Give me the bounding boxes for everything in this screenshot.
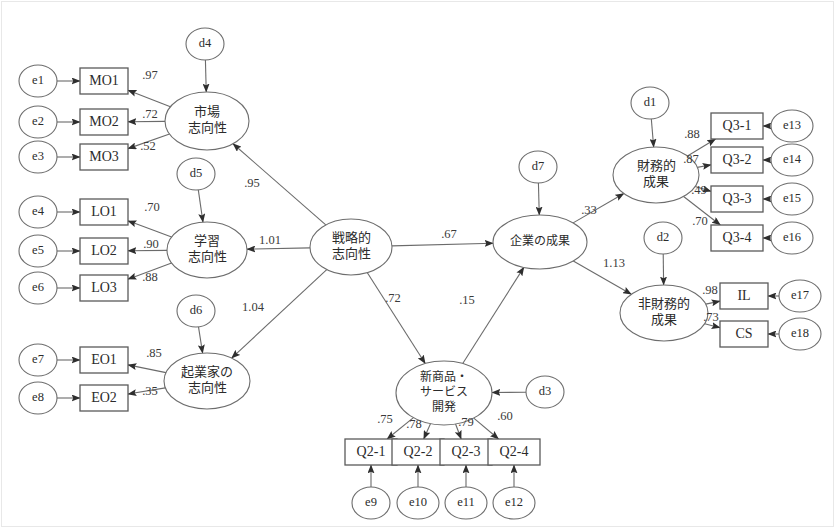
disturbance-node-d3[interactable]: d3 <box>526 376 564 408</box>
error-node-e5[interactable]: e5 <box>19 235 57 267</box>
latent-node-label: 志向性 <box>188 249 227 264</box>
error-node-e17[interactable]: e17 <box>779 280 821 312</box>
observed-node-LO3[interactable]: LO3 <box>80 275 128 301</box>
observed-node-label: Q2-4 <box>500 444 529 459</box>
error-node-label: e10 <box>409 495 427 509</box>
error-node-label: e16 <box>783 230 801 244</box>
error-node-e16[interactable]: e16 <box>771 222 813 254</box>
observed-node-CS[interactable]: CS <box>720 321 768 347</box>
latent-node-EO[interactable]: 起業家の志向性 <box>164 353 250 409</box>
error-node-label: e8 <box>32 390 44 404</box>
error-node-e13[interactable]: e13 <box>771 110 813 142</box>
error-node-label: e18 <box>791 326 809 340</box>
error-node-e8[interactable]: e8 <box>19 382 57 414</box>
disturbance-path-d6-to-EO <box>198 327 202 353</box>
latent-node-label: 志向性 <box>188 380 227 395</box>
disturbance-path-d1-to-FIN <box>651 119 653 147</box>
observed-node-label: Q3-4 <box>723 230 752 245</box>
error-node-label: e11 <box>457 495 475 509</box>
observed-node-label: MO2 <box>89 114 119 129</box>
observed-node-Q2-2[interactable]: Q2-2 <box>392 439 444 465</box>
observed-node-LO1[interactable]: LO1 <box>80 199 128 225</box>
path-NPD-to-FP <box>463 267 524 363</box>
error-node-label: e4 <box>32 204 45 218</box>
observed-node-MO1[interactable]: MO1 <box>80 68 128 94</box>
path-coefficient-NPD-to-Q2-3: .79 <box>458 415 474 429</box>
disturbance-node-d2[interactable]: d2 <box>644 222 682 254</box>
observed-node-label: Q3-3 <box>723 191 752 206</box>
disturbance-node-d5[interactable]: d5 <box>177 158 215 190</box>
latent-node-SO[interactable]: 戦略的志向性 <box>310 219 392 275</box>
error-node-e1[interactable]: e1 <box>19 65 57 97</box>
latent-node-label: 新商品・ <box>420 369 468 384</box>
observed-node-Q3-3[interactable]: Q3-3 <box>711 186 763 212</box>
path-coefficient-MO-to-MO2: .72 <box>142 107 158 121</box>
error-node-label: e12 <box>505 495 523 509</box>
observed-node-IL[interactable]: IL <box>720 283 768 309</box>
latent-node-NON[interactable]: 非財務的成果 <box>620 285 708 341</box>
error-node-e14[interactable]: e14 <box>771 144 813 176</box>
observed-node-Q2-3[interactable]: Q2-3 <box>440 439 492 465</box>
observed-node-label: Q3-2 <box>723 152 752 167</box>
error-node-e10[interactable]: e10 <box>397 487 439 519</box>
error-node-e12[interactable]: e12 <box>493 487 535 519</box>
error-node-e2[interactable]: e2 <box>19 106 57 138</box>
observed-node-label: MO1 <box>89 73 119 88</box>
observed-node-EO2[interactable]: EO2 <box>80 385 128 411</box>
diagram-canvas: e1e2e3e4e5e6e7e8e9e10e11e12e13e14e15e16e… <box>0 0 835 528</box>
observed-node-Q3-2[interactable]: Q3-2 <box>711 147 763 173</box>
disturbance-node-d4[interactable]: d4 <box>186 28 224 60</box>
path-coefficient-LO-to-LO2: .90 <box>143 237 159 251</box>
disturbance-node-d1[interactable]: d1 <box>631 87 669 119</box>
path-coefficient-FP-to-FIN: .33 <box>581 203 597 217</box>
disturbance-node-label: d6 <box>190 303 203 317</box>
latent-node-label: 起業家の <box>181 364 233 379</box>
disturbance-node-d6[interactable]: d6 <box>177 295 215 327</box>
observed-node-Q2-4[interactable]: Q2-4 <box>488 439 540 465</box>
error-node-e15[interactable]: e15 <box>771 183 813 215</box>
disturbance-node-label: d5 <box>190 166 203 180</box>
observed-node-Q2-1[interactable]: Q2-1 <box>345 439 397 465</box>
error-node-e11[interactable]: e11 <box>445 487 487 519</box>
disturbance-path-d7-to-FP <box>538 183 539 215</box>
observed-node-LO2[interactable]: LO2 <box>80 238 128 264</box>
latent-node-label: 市場 <box>194 104 220 119</box>
observed-node-Q3-1[interactable]: Q3-1 <box>711 113 763 139</box>
error-node-label: e1 <box>32 73 44 87</box>
observed-node-label: CS <box>735 326 752 341</box>
disturbance-node-label: d2 <box>657 230 670 244</box>
error-node-e6[interactable]: e6 <box>19 272 57 304</box>
path-coefficient-EO-to-EO2: .35 <box>142 384 158 398</box>
disturbance-node-label: d3 <box>539 384 552 398</box>
path-coefficient-NPD-to-Q2-1: .75 <box>377 412 393 426</box>
latent-node-NPD[interactable]: 新商品・サービス開発 <box>396 361 492 425</box>
observed-node-label: LO3 <box>91 280 117 295</box>
path-SO-to-FP <box>392 243 493 246</box>
error-node-e9[interactable]: e9 <box>352 487 390 519</box>
observed-node-Q3-4[interactable]: Q3-4 <box>711 225 763 251</box>
observed-node-EO1[interactable]: EO1 <box>80 347 128 373</box>
disturbance-path-d4-to-MO <box>205 60 206 92</box>
error-node-label: e7 <box>32 352 44 366</box>
error-node-label: e5 <box>32 243 44 257</box>
error-node-label: e14 <box>783 152 802 166</box>
observed-node-label: MO3 <box>89 149 119 164</box>
error-node-e3[interactable]: e3 <box>19 141 57 173</box>
path-coefficient-FIN-to-Q3-4: .70 <box>692 214 708 228</box>
latent-node-label: 成果 <box>643 174 669 189</box>
observed-node-label: Q3-1 <box>723 118 752 133</box>
path-SO-to-NPD <box>367 273 425 364</box>
error-node-label: e13 <box>783 118 801 132</box>
disturbance-node-d7[interactable]: d7 <box>519 151 557 183</box>
path-coefficient-MO-to-MO1: .97 <box>142 68 158 82</box>
latent-node-LO[interactable]: 学習志向性 <box>167 222 247 278</box>
disturbance-path-d5-to-LO <box>198 190 203 222</box>
observed-node-MO2[interactable]: MO2 <box>80 109 128 135</box>
observed-node-MO3[interactable]: MO3 <box>80 144 128 170</box>
latent-node-FP[interactable]: 企業の成果 <box>493 215 587 269</box>
latent-node-MO[interactable]: 市場志向性 <box>165 92 249 150</box>
latent-node-label: 学習 <box>194 233 220 248</box>
error-node-e18[interactable]: e18 <box>779 318 821 350</box>
error-node-e7[interactable]: e7 <box>19 344 57 376</box>
error-node-e4[interactable]: e4 <box>19 196 57 228</box>
